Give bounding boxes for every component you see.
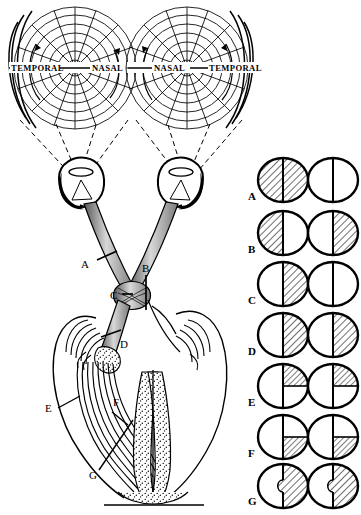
defect-left-eye-c [258, 262, 308, 306]
lesion-label-b: B [142, 262, 149, 274]
right-chart-nasal-label: NASAL [154, 63, 185, 73]
defect-row-label-b: B [248, 243, 256, 255]
defect-right-eye-b [308, 211, 358, 255]
defect-left-eye-f [258, 415, 308, 459]
right-chart-temporal-label: TEMPORAL [209, 63, 262, 73]
defect-left-eye-a [258, 158, 308, 202]
defect-right-eye-d [308, 313, 358, 357]
defect-right-eye-a [308, 158, 358, 202]
defect-left-eye-b [258, 211, 308, 255]
defect-row-label-c: C [248, 294, 256, 306]
defect-row-label-g: G [248, 495, 257, 507]
lesion-label-a: A [81, 258, 89, 270]
defect-right-eye-e [308, 364, 358, 408]
right-eyeball [158, 158, 203, 210]
left-eyeball [59, 158, 104, 210]
lesion-label-e: E [45, 402, 52, 414]
defect-right-eye-g [308, 464, 358, 508]
visual-pathway-figure: TEMPORAL NASAL NASAL TEMPORAL [0, 0, 361, 515]
defect-right-eye-f [308, 415, 358, 459]
defect-row-label-e: E [248, 396, 255, 408]
defect-row-label-a: A [248, 190, 256, 202]
left-chart-temporal-label: TEMPORAL [11, 63, 64, 73]
lesion-label-g: G [89, 469, 97, 481]
defect-left-eye-g [258, 464, 308, 508]
defect-row-label-f: F [248, 447, 255, 459]
lesion-label-c: C [110, 289, 117, 301]
lesion-label-f: F [113, 396, 119, 408]
left-chart-nasal-label: NASAL [92, 63, 123, 73]
defect-row-label-d: D [248, 345, 256, 357]
defect-right-eye-c [308, 262, 358, 306]
defect-left-eye-e [258, 364, 308, 408]
lesion-label-d: D [120, 338, 128, 350]
defect-left-eye-d [258, 313, 308, 357]
